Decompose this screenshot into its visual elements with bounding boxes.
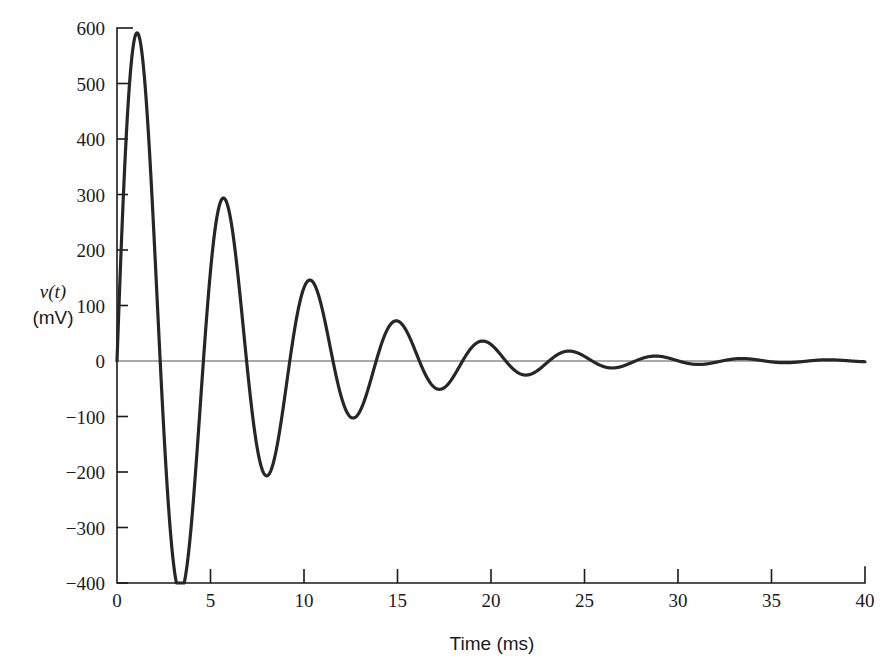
y-tick-label: −100 [66, 407, 105, 428]
x-tick-label: 40 [856, 590, 875, 611]
x-tick-label: 0 [112, 590, 122, 611]
y-tick-label: 0 [96, 351, 106, 372]
x-tick-label: 35 [762, 590, 781, 611]
x-tick-label: 5 [206, 590, 216, 611]
y-tick-label: 500 [77, 74, 106, 95]
y-tick-label: 300 [77, 185, 106, 206]
x-tick-label: 20 [482, 590, 501, 611]
y-tick-label: −200 [66, 462, 105, 483]
y-tick-label: 200 [77, 240, 106, 261]
y-axis-tick-labels: −400−300−200−1000100200300400500600 [66, 18, 105, 594]
x-axis-label: Time (ms) [450, 633, 535, 654]
axis-frame [117, 28, 865, 583]
x-tick-label: 25 [575, 590, 594, 611]
y-axis-label-units: (mV) [32, 307, 73, 328]
y-tick-label: 600 [77, 18, 106, 39]
y-tick-label: 400 [77, 129, 106, 150]
figure-container: −400−300−200−1000100200300400500600 0510… [0, 0, 893, 660]
chart-plot: −400−300−200−1000100200300400500600 0510… [0, 0, 893, 660]
x-axis-tick-labels: 0510152025303540 [112, 590, 874, 611]
data-series-curve [117, 33, 865, 583]
y-tick-label: −300 [66, 518, 105, 539]
axes-group [117, 28, 865, 583]
x-tick-label: 15 [388, 590, 407, 611]
y-axis-label-variable: v(t) [40, 281, 66, 303]
y-tick-label: −400 [66, 573, 105, 594]
x-axis-tick-marks [211, 569, 772, 583]
x-tick-label: 30 [669, 590, 688, 611]
y-tick-label: 100 [77, 296, 106, 317]
x-tick-label: 10 [295, 590, 314, 611]
